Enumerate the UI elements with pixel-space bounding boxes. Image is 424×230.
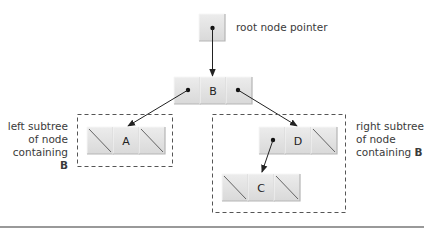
right-subtree-label-line1: right subtree <box>356 120 424 133</box>
right-subtree-label-line3: containing B <box>356 146 424 159</box>
left-subtree-label-node: B <box>60 159 68 171</box>
left-subtree-label-line1: left subtree <box>2 120 68 133</box>
node-c-value: C <box>257 182 265 195</box>
binary-tree-diagram: B A D <box>0 0 424 230</box>
left-subtree-label: left subtree of node containing B <box>2 120 68 172</box>
left-subtree-label-line3: containing B <box>2 146 68 172</box>
right-subtree-label-prefix: containing <box>356 146 415 158</box>
right-subtree-label-node: B <box>415 146 423 158</box>
right-subtree-label-line2: of node <box>356 133 424 146</box>
node-b-value: B <box>209 85 217 98</box>
arrow-b-to-d <box>238 90 297 126</box>
right-subtree-label: right subtree of node containing B <box>356 120 424 159</box>
left-subtree-label-prefix: containing <box>13 146 68 158</box>
node-d-value: D <box>294 135 302 148</box>
arrow-b-to-a <box>128 90 188 126</box>
diagram-svg: B A D <box>0 0 424 230</box>
left-subtree-label-line2: of node <box>2 133 68 146</box>
root-pointer-label: root node pointer <box>236 21 328 34</box>
node-a-value: A <box>122 135 130 148</box>
